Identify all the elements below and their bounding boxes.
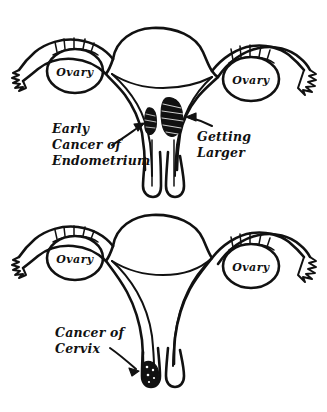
ovary-right-label-lower: Ovary [232, 261, 270, 274]
ovary-right-hatch-5 [267, 50, 270, 60]
ovary-right-hatch-2 [240, 46, 241, 57]
uterus-outline-lower-right [113, 215, 212, 364]
ovary-right-label-upper: Ovary [232, 74, 270, 87]
uterus-cancer-diagram: Ovary Ovary Early Cancer o [0, 0, 327, 412]
ovary-left-lower-hatch-1 [55, 230, 57, 239]
fimbriae-right-lower-icon [298, 257, 316, 282]
cancer-cervix-line-1: Cancer of [55, 325, 127, 340]
enlarged-endometrial-tumor [161, 98, 183, 137]
early-endometrial-tumor [145, 108, 157, 135]
endometrial-cancer-panel: Ovary Ovary Early Cancer o [12, 28, 316, 197]
ovary-right-lower-hatch-2 [240, 234, 241, 244]
uterine-cavity-upper-roof [112, 74, 212, 88]
getting-larger-line-1: Getting [197, 129, 251, 144]
cancer-cervix-arrow-line [110, 348, 136, 369]
cervical-cancer-panel: Ovary Ovary Cancer of Cervix [12, 215, 316, 387]
ovary-left-lower-hatch-2 [64, 227, 65, 236]
getting-larger-callout: Getting Larger [186, 113, 251, 160]
fimbriae-right-icon [298, 70, 316, 95]
getting-larger-line-2: Larger [196, 145, 246, 160]
cancer-of-cervix-callout: Cancer of Cervix [55, 325, 139, 376]
ovary-left-label-upper: Ovary [56, 66, 94, 79]
uterine-cavity-lower-roof [112, 258, 212, 275]
uterus-outline-lower-left [106, 246, 143, 364]
ovary-left-hatch-2 [64, 39, 65, 49]
illustration-root: Ovary Ovary Early Cancer o [0, 0, 327, 412]
cancer-cervix-line-2: Cervix [55, 341, 100, 356]
ovary-right-hatch-1 [231, 49, 233, 60]
early-cancer-line-3: Endometrium [51, 153, 151, 168]
cancer-cervix-arrow-head [129, 368, 139, 376]
early-cancer-line-1: Early [51, 121, 90, 136]
ovary-left-label-lower: Ovary [56, 253, 94, 266]
cervical-tumor [142, 361, 159, 386]
ovary-left-hatch-1 [55, 42, 57, 52]
early-cancer-callout: Early Cancer of Endometrium [51, 121, 151, 168]
ovary-right-lower-hatch-5 [267, 238, 270, 247]
